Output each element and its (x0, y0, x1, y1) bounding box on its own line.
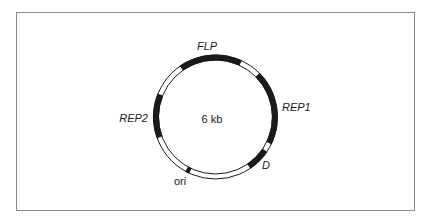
markers (185, 166, 191, 173)
label-d: D (262, 159, 270, 171)
label-flp: FLP (197, 40, 218, 52)
label-rep2: REP2 (119, 112, 148, 124)
marker-ori (185, 166, 191, 173)
label-rep1: REP1 (282, 101, 311, 113)
gene-segment-rep2 (153, 94, 163, 139)
plasmid-map: FLP REP1 REP2 6 kb D ori (0, 0, 428, 222)
label-ori: ori (174, 175, 186, 187)
gene-segment-rep1 (255, 73, 278, 145)
label-plasmid-size: 6 kb (202, 113, 223, 125)
gene-segment-flp (180, 54, 242, 70)
gene-segments (153, 54, 278, 168)
